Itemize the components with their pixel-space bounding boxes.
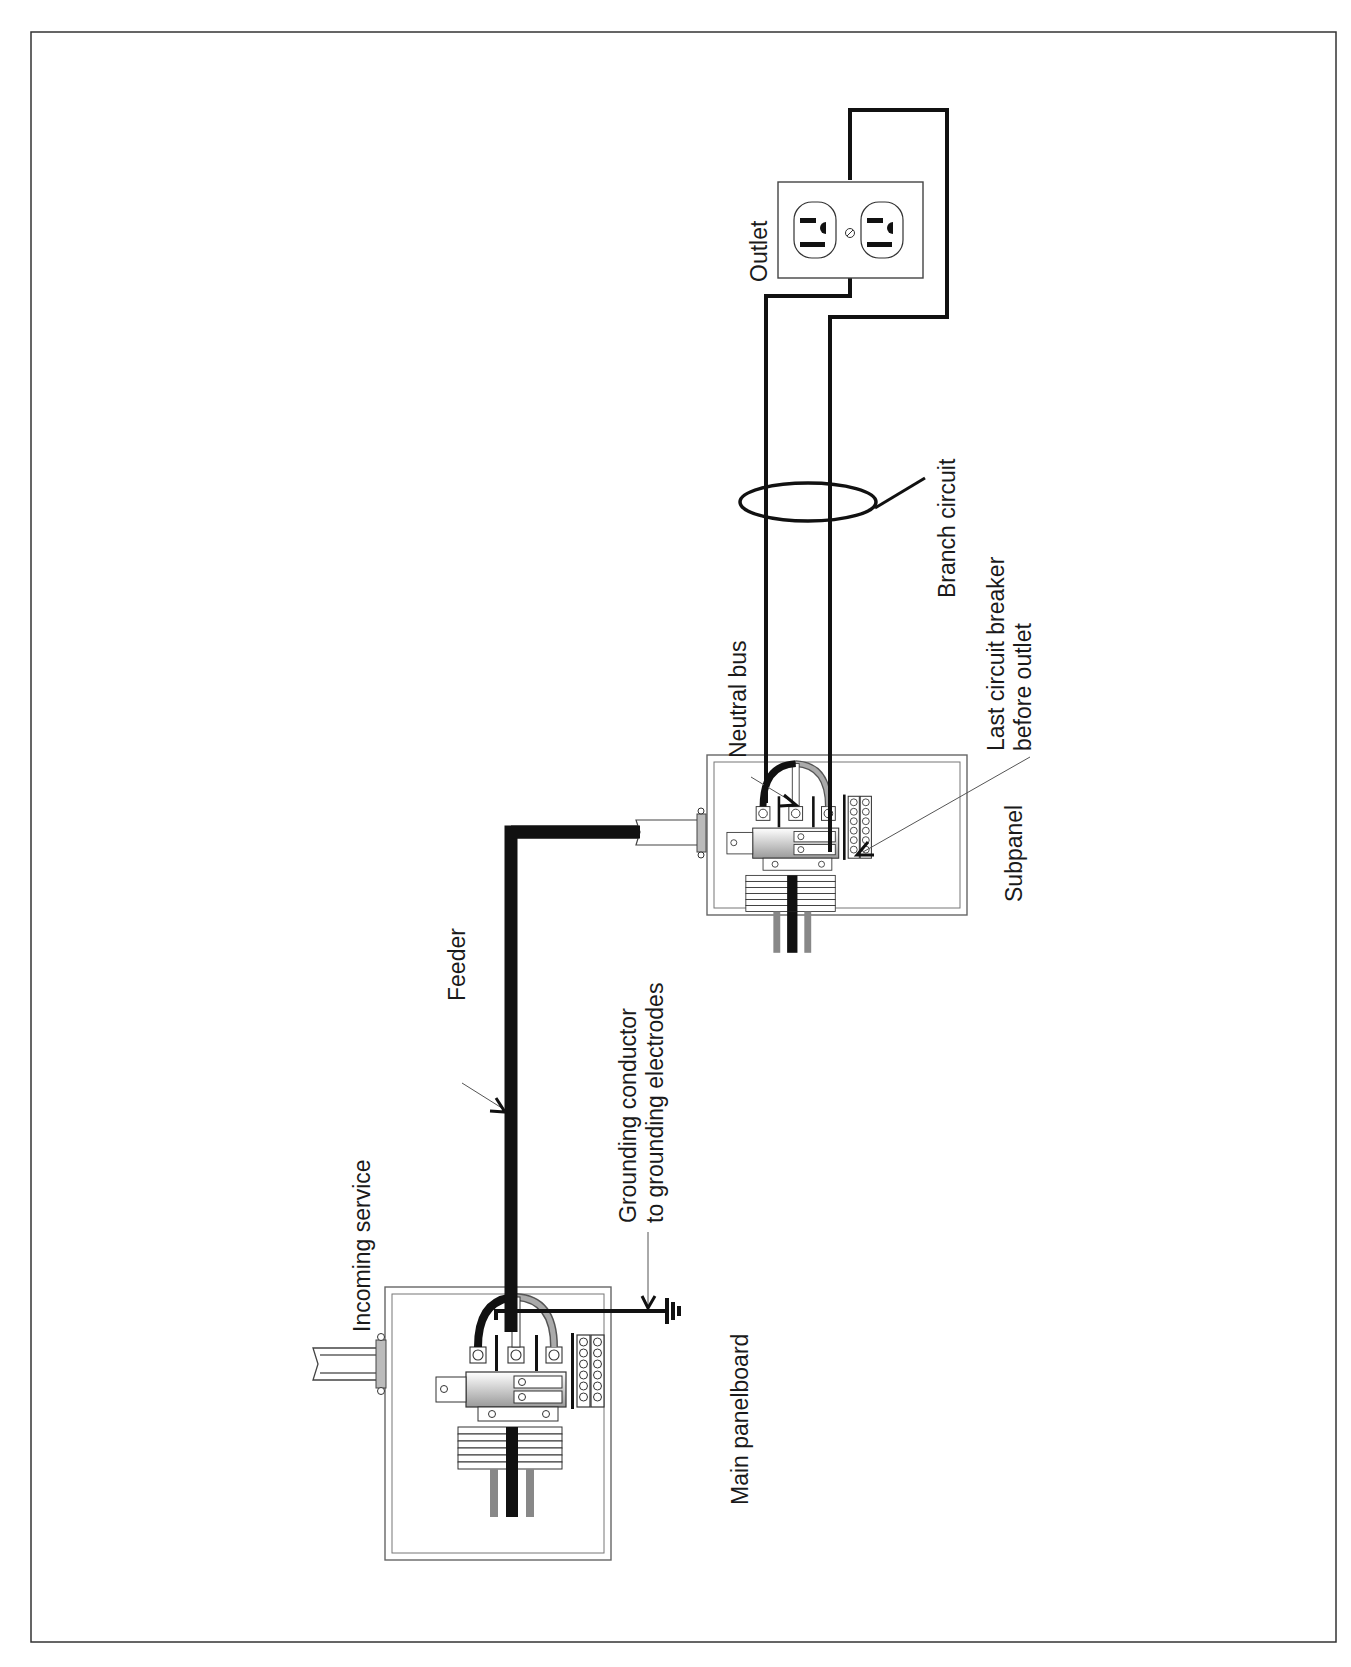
label-grounding-line1: Grounding conductor (615, 1008, 641, 1223)
label-incoming-service: Incoming service (349, 1159, 375, 1332)
branch-circuit-leader (875, 478, 925, 508)
label-outlet: Outlet (746, 220, 772, 282)
subpanel-conduit (511, 808, 706, 858)
label-last-breaker-line1: Last circuit breaker (983, 556, 1009, 751)
incoming-service-conduit (313, 1334, 386, 1395)
label-branch-circuit: Branch circuit (934, 458, 960, 598)
label-feeder: Feeder (444, 928, 470, 1001)
label-main-panelboard: Main panelboard (727, 1334, 753, 1505)
branch-circuit-bundle-icon (740, 483, 876, 521)
label-neutral-bus: Neutral bus (725, 640, 751, 758)
main-panelboard (385, 1287, 611, 1560)
outlet-icon (778, 182, 923, 278)
label-grounding-line2: to grounding electrodes (642, 983, 668, 1223)
ground-electrode-icon (665, 1298, 681, 1324)
subpanel (707, 755, 967, 953)
wiring-diagram: Incoming service Main panelboard Feeder … (0, 0, 1351, 1667)
label-last-breaker-line2: before outlet (1010, 623, 1036, 751)
label-subpanel: Subpanel (1001, 805, 1027, 902)
feeder-pointer (462, 1083, 505, 1110)
